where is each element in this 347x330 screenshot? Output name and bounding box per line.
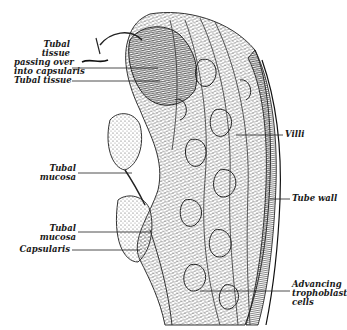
- label-tubal-mucosa-upper: Tubal mucosa: [30, 164, 76, 182]
- figure-canvas: Tubal tissue passing over into capsulari…: [0, 0, 347, 330]
- label-tubal-mucosa-lower: Tubal mucosa: [30, 224, 76, 242]
- label-villi: Villi: [285, 130, 304, 139]
- label-tubal-tissue: Tubal tissue: [14, 76, 70, 85]
- label-tube-wall: Tube wall: [292, 194, 337, 203]
- label-advancing-trophoblast-cells: Advancing trophoblast cells: [292, 280, 347, 307]
- label-capsularis: Capsularis: [14, 245, 70, 254]
- label-tubal-tissue-passing-over: Tubal tissue passing over into capsulari…: [14, 40, 70, 76]
- tubal-mucosa-upper: [108, 114, 142, 170]
